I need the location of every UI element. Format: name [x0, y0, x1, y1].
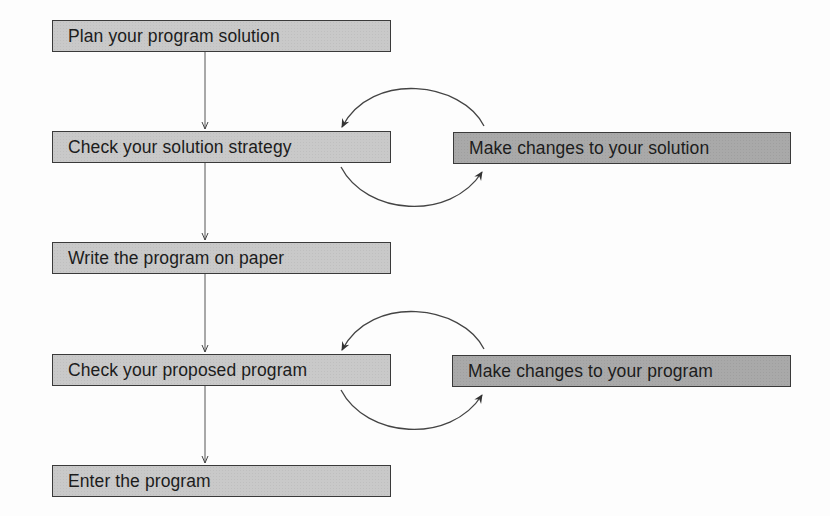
- step-label: Check your solution strategy: [68, 137, 292, 158]
- step-check-program: Check your proposed program: [52, 354, 391, 386]
- step-label: Write the program on paper: [68, 248, 284, 269]
- arc-check-program-to-change-program: [341, 390, 482, 429]
- arc-change-program-to-check-program: [342, 312, 484, 350]
- step-label: Make changes to your solution: [469, 138, 709, 159]
- arc-check-strategy-to-change-solution: [341, 167, 482, 206]
- step-change-program: Make changes to your program: [452, 355, 791, 387]
- step-label: Make changes to your program: [468, 361, 713, 382]
- step-label: Check your proposed program: [68, 360, 307, 381]
- step-plan-solution: Plan your program solution: [52, 20, 391, 52]
- step-check-strategy: Check your solution strategy: [52, 131, 391, 163]
- arc-change-solution-to-check-strategy: [342, 89, 484, 127]
- step-write-program: Write the program on paper: [52, 242, 391, 274]
- step-label: Enter the program: [68, 471, 211, 492]
- step-label: Plan your program solution: [68, 26, 280, 47]
- flowchart-canvas: Plan your program solution Check your so…: [0, 0, 830, 516]
- step-change-solution: Make changes to your solution: [453, 132, 791, 164]
- step-enter-program: Enter the program: [52, 465, 391, 497]
